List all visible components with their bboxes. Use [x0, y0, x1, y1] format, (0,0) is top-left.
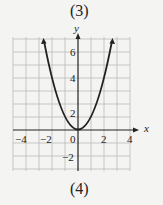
svg-text:6: 6	[70, 46, 76, 58]
svg-text:y: y	[73, 22, 79, 34]
svg-text:−4: −4	[15, 133, 27, 145]
svg-text:2: 2	[70, 107, 76, 119]
svg-text:0: 0	[70, 133, 76, 145]
figure: (3) −4−2024 642−2 xy (4)	[0, 0, 163, 205]
tick-labels: −4−2024 642−2 xy	[15, 22, 149, 163]
svg-text:x: x	[143, 122, 149, 134]
svg-text:−2: −2	[40, 133, 52, 145]
svg-text:4: 4	[70, 72, 76, 84]
parabola-chart: −4−2024 642−2 xy	[0, 0, 163, 205]
svg-text:2: 2	[101, 133, 107, 145]
x-axis-arrow-icon	[133, 128, 139, 133]
bottom-label: (4)	[70, 180, 89, 198]
svg-text:−2: −2	[62, 151, 74, 163]
svg-text:4: 4	[127, 133, 133, 145]
